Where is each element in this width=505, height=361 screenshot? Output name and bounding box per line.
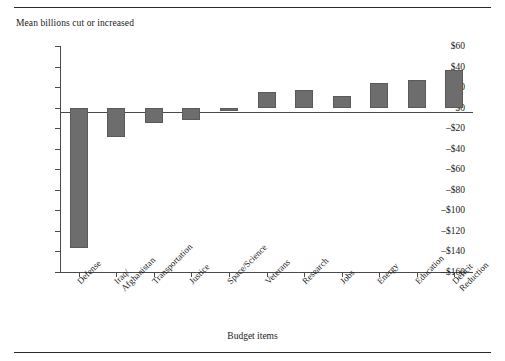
y-tick-mark (55, 169, 60, 170)
bar (107, 108, 125, 138)
y-tick-mark (55, 128, 60, 129)
y-tick-label: –$60 (446, 164, 465, 174)
bar (295, 90, 313, 107)
bar (258, 92, 276, 107)
bar (220, 108, 238, 111)
y-tick-label: –$100 (441, 205, 465, 215)
y-tick-label: –$40 (446, 144, 465, 154)
y-tick-mark (55, 87, 60, 88)
y-tick-mark (55, 251, 60, 252)
y-tick-label: $60 (451, 41, 465, 51)
y-tick-mark (55, 67, 60, 68)
top-rule (14, 7, 491, 8)
bar (145, 108, 163, 123)
bar (182, 108, 200, 120)
y-tick-mark (55, 210, 60, 211)
y-tick-label: –$20 (446, 123, 465, 133)
plot-area: $60$40$20$0–$20–$40–$60–$80–$100–$120–$1… (60, 46, 473, 272)
y-tick-mark (55, 272, 60, 273)
y-tick-mark (55, 108, 60, 109)
bar (70, 108, 88, 249)
y-tick-mark (55, 149, 60, 150)
x-axis-title: Budget items (0, 331, 505, 341)
bottom-rule (14, 352, 491, 353)
y-tick-mark (55, 190, 60, 191)
y-axis-title: Mean billions cut or increased (16, 18, 134, 28)
y-tick-mark (55, 231, 60, 232)
y-tick-label: –$140 (441, 246, 465, 256)
y-tick-label: –$120 (441, 226, 465, 236)
bar (370, 83, 388, 108)
y-tick-mark (55, 46, 60, 47)
bar (333, 96, 351, 107)
y-tick-label: –$80 (446, 185, 465, 195)
bar (408, 80, 426, 108)
y-axis-line (60, 46, 61, 272)
figure-panel: Mean billions cut or increased $60$40$20… (0, 0, 505, 361)
bar (445, 70, 463, 108)
